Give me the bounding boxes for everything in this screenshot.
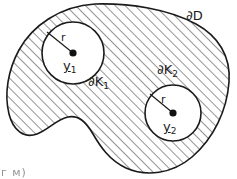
- hole-one-boundary-label: ∂K1: [88, 75, 109, 88]
- hole-two-center-dot: [169, 109, 176, 116]
- hole-one-center-dot: [69, 49, 76, 56]
- hole-two-center-subscript: 2: [171, 127, 177, 136]
- hole-one-radius-label: r: [61, 32, 66, 43]
- hole-two-boundary-subscript: 2: [172, 69, 178, 79]
- hole-one-center-subscript: 1: [71, 66, 77, 75]
- outer-boundary-label: ∂D: [186, 9, 203, 22]
- corner-text-artifact: г м): [1, 166, 27, 179]
- hole-two-center-symbol: y: [163, 119, 171, 134]
- hole-one-center-label: y1: [63, 57, 76, 73]
- hole-two-boundary-label: ∂K2: [157, 63, 178, 76]
- hole-two-boundary-symbol: ∂K: [157, 62, 172, 77]
- domain-diagram-svg: [0, 0, 237, 179]
- hole-one-boundary-symbol: ∂K: [88, 74, 103, 89]
- hole-one-center-symbol: y: [63, 58, 71, 73]
- hole-one-boundary-subscript: 1: [103, 81, 109, 91]
- hole-two-center-label: y2: [163, 118, 176, 134]
- figure-canvas: ∂D ∂K1 ∂K2 r r y1 y2 г м): [0, 0, 237, 179]
- hole-two-radius-label: r: [161, 94, 166, 105]
